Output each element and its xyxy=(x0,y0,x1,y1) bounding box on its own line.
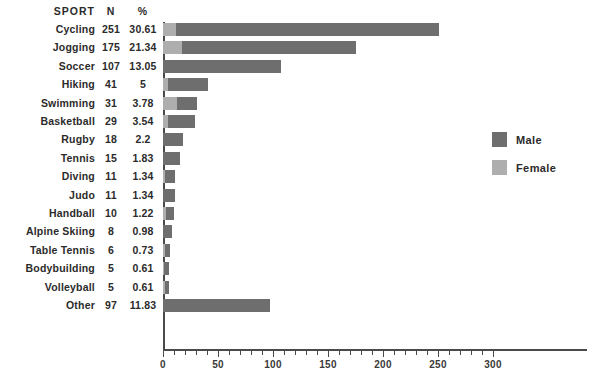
table-row: Hiking415 xyxy=(0,75,163,93)
bar-alpine-skiing[interactable] xyxy=(163,225,172,238)
row-n-value: 5 xyxy=(99,259,123,277)
bar-segment-male xyxy=(177,97,197,110)
x-axis-minor-tick xyxy=(207,351,208,355)
row-pct-value: 1.34 xyxy=(126,186,160,204)
header-pct: % xyxy=(126,2,160,20)
bar-volleyball[interactable] xyxy=(163,281,169,294)
x-axis-minor-tick xyxy=(482,351,483,355)
x-axis-minor-tick xyxy=(185,351,186,355)
x-axis-minor-tick xyxy=(372,351,373,355)
bar-rugby[interactable] xyxy=(163,133,183,146)
bar-segment-male xyxy=(176,23,439,36)
table-row: Soccer10713.05 xyxy=(0,57,163,75)
x-axis-minor-tick xyxy=(295,351,296,355)
row-n-value: 251 xyxy=(99,20,123,38)
table-row: Rugby182.2 xyxy=(0,130,163,148)
row-sport-label: Volleyball xyxy=(45,278,95,296)
row-pct-value: 21.34 xyxy=(126,38,160,56)
bar-segment-male xyxy=(163,189,175,202)
x-axis-minor-tick xyxy=(361,351,362,355)
legend-swatch-male-icon xyxy=(492,132,507,147)
table-row: Table Tennis60.73 xyxy=(0,241,163,259)
bar-jogging[interactable] xyxy=(163,41,356,54)
x-axis-minor-tick xyxy=(284,351,285,355)
x-axis-major-tick xyxy=(218,351,219,357)
table-header-row: SPORTN% xyxy=(0,2,163,20)
x-axis-minor-tick xyxy=(427,351,428,355)
x-axis-tick-label: 50 xyxy=(212,359,224,370)
x-axis-tick-label: 200 xyxy=(374,359,392,370)
bar-segment-female xyxy=(163,23,176,36)
x-axis-minor-tick xyxy=(174,351,175,355)
bar-segment-female xyxy=(163,97,177,110)
legend-label-female: Female xyxy=(516,162,556,174)
row-pct-value: 3.54 xyxy=(126,112,160,130)
bar-judo[interactable] xyxy=(163,189,175,202)
x-axis-minor-tick xyxy=(405,351,406,355)
bar-segment-male xyxy=(164,262,168,275)
row-n-value: 8 xyxy=(99,222,123,240)
x-axis-major-tick xyxy=(438,351,439,357)
table-row: Basketball293.54 xyxy=(0,112,163,130)
row-n-value: 41 xyxy=(99,75,123,93)
x-axis-tick-label: 150 xyxy=(319,359,337,370)
legend-item-female: Female xyxy=(492,160,556,175)
x-axis-minor-tick xyxy=(251,351,252,355)
table-row: Judo111.34 xyxy=(0,186,163,204)
row-sport-label: Rugby xyxy=(61,130,95,148)
row-n-value: 5 xyxy=(99,278,123,296)
x-axis-minor-tick xyxy=(394,351,395,355)
row-pct-value: 0.98 xyxy=(126,222,160,240)
bar-segment-male xyxy=(168,115,194,128)
row-pct-value: 3.78 xyxy=(126,94,160,112)
row-sport-label: Alpine Skiing xyxy=(26,222,95,240)
bar-cycling[interactable] xyxy=(163,23,439,36)
x-axis-major-tick xyxy=(273,351,274,357)
bar-table-tennis[interactable] xyxy=(163,244,170,257)
header-n: N xyxy=(99,2,123,20)
bar-basketball[interactable] xyxy=(163,115,195,128)
row-pct-value: 30.61 xyxy=(126,20,160,38)
x-axis-minor-tick xyxy=(449,351,450,355)
table-row: Volleyball50.61 xyxy=(0,278,163,296)
row-sport-label: Jogging xyxy=(53,38,95,56)
row-sport-label: Swimming xyxy=(41,94,95,112)
row-n-value: 31 xyxy=(99,94,123,112)
row-pct-value: 1.83 xyxy=(126,149,160,167)
row-sport-label: Handball xyxy=(49,204,95,222)
bar-other[interactable] xyxy=(163,299,270,312)
table-row: Jogging17521.34 xyxy=(0,38,163,56)
row-n-value: 11 xyxy=(99,186,123,204)
legend-item-male: Male xyxy=(492,132,556,147)
bar-diving[interactable] xyxy=(163,170,175,183)
x-axis-minor-tick xyxy=(460,351,461,355)
legend-swatch-female-icon xyxy=(492,160,507,175)
table-row: Tennis151.83 xyxy=(0,149,163,167)
bar-segment-male xyxy=(165,170,175,183)
row-pct-value: 0.61 xyxy=(126,259,160,277)
bar-segment-male xyxy=(182,41,356,54)
table-row: Diving111.34 xyxy=(0,167,163,185)
row-sport-label: Hiking xyxy=(62,75,95,93)
bar-segment-male xyxy=(163,299,270,312)
bar-segment-male xyxy=(166,207,174,220)
bar-segment-female xyxy=(163,41,182,54)
row-pct-value: 1.34 xyxy=(126,167,160,185)
bar-hiking[interactable] xyxy=(163,78,208,91)
header-sport: SPORT xyxy=(54,2,95,20)
x-axis-tick-label: 300 xyxy=(484,359,502,370)
bar-soccer[interactable] xyxy=(163,60,281,73)
row-n-value: 18 xyxy=(99,130,123,148)
row-pct-value: 0.73 xyxy=(126,241,160,259)
bar-handball[interactable] xyxy=(163,207,174,220)
bar-segment-male xyxy=(165,244,169,257)
bar-bodybuilding[interactable] xyxy=(163,262,169,275)
bar-tennis[interactable] xyxy=(163,152,180,165)
x-axis-minor-tick xyxy=(306,351,307,355)
x-axis-major-tick xyxy=(328,351,329,357)
row-pct-value: 5 xyxy=(126,75,160,93)
x-axis-tick-label: 0 xyxy=(160,359,166,370)
plot-area xyxy=(163,22,546,349)
bar-swimming[interactable] xyxy=(163,97,197,110)
x-axis-minor-tick xyxy=(350,351,351,355)
